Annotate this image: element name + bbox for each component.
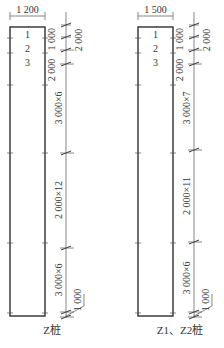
dim-label-segment: 2 000×11 — [181, 177, 192, 215]
segment-label: 2 — [25, 43, 30, 54]
rect-ticks — [135, 38, 176, 313]
pile-body — [138, 27, 173, 316]
dim-label-2000: 2 000 — [174, 59, 185, 82]
dim-label-segment: 2 000×12 — [53, 181, 64, 219]
pile-body — [10, 27, 45, 316]
dim-label-segment: 3 000×7 — [181, 91, 192, 124]
segment-label: 3 — [25, 57, 30, 68]
dim-label-side-2000: 2 000 — [73, 29, 84, 52]
dim-label-segment: 3 000×6 — [53, 91, 64, 124]
pile-caption: Z1、Z2桩 — [157, 323, 203, 336]
width-label: 1 500 — [144, 4, 167, 15]
segment-label: 1 — [25, 29, 30, 40]
dim-label-2000: 2 000 — [46, 59, 57, 82]
dim-label-1000: 1 000 — [46, 28, 57, 51]
dim-label-bottom: 1 000 — [200, 289, 211, 312]
dim-label-1000: 1 000 — [174, 28, 185, 51]
dim-label-bottom: 1 000 — [72, 289, 83, 312]
segment-label: 3 — [153, 57, 158, 68]
pile-left: 1 200 1 2 3 1 000 2 000 2 — [7, 4, 84, 336]
dim-label-segment: 3 000×6 — [181, 261, 192, 294]
pile-diagram: 1 200 1 2 3 1 000 2 000 2 — [0, 0, 224, 348]
dim-label-segment: 3 000×6 — [53, 263, 64, 296]
dim-label-side-2000: 2 000 — [201, 29, 212, 52]
segment-label: 1 — [153, 29, 158, 40]
pile-caption: Z桩 — [43, 323, 61, 336]
pile-right: 1 500 1 2 3 1 000 2 000 2 000 3 — [135, 4, 212, 336]
rect-ticks — [7, 38, 48, 313]
segment-label: 2 — [153, 43, 158, 54]
width-label: 1 200 — [16, 4, 39, 15]
